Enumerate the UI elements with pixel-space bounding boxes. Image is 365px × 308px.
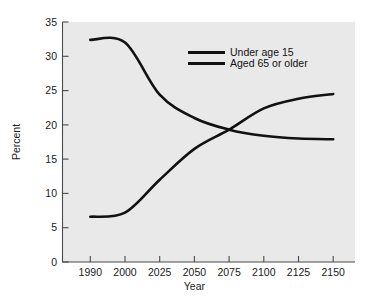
y-tick-label: 30 [45, 50, 57, 62]
x-tick-label: 2150 [322, 266, 346, 278]
x-tick-label: 2075 [217, 266, 241, 278]
y-tick-label: 15 [45, 153, 57, 165]
x-axis-title: Year [184, 280, 206, 292]
line-chart: 0 5 10 15 20 25 30 35 1990 2000 2025 205… [0, 0, 365, 308]
y-axis-tick-labels: 0 5 10 15 20 25 30 35 [45, 16, 57, 268]
y-tick-label: 25 [45, 84, 57, 96]
y-axis-title: Percent [10, 124, 22, 160]
x-tick-label: 2000 [113, 266, 137, 278]
y-tick-label: 20 [45, 119, 57, 131]
x-tick-label: 1990 [79, 266, 103, 278]
plot-background [63, 22, 356, 262]
x-tick-label: 2050 [183, 266, 207, 278]
x-tick-label: 2025 [148, 266, 172, 278]
legend-label-aged-65-or-older: Aged 65 or older [230, 57, 308, 69]
x-axis-tick-labels: 1990 2000 2025 2050 2075 2100 2125 2150 [79, 266, 345, 278]
x-tick-label: 2125 [287, 266, 311, 278]
x-tick-label: 2100 [252, 266, 276, 278]
y-tick-label: 5 [51, 221, 57, 233]
y-tick-label: 0 [51, 256, 57, 268]
y-tick-label: 35 [45, 16, 57, 28]
chart-figure: 0 5 10 15 20 25 30 35 1990 2000 2025 205… [0, 0, 365, 308]
y-tick-label: 10 [45, 187, 57, 199]
